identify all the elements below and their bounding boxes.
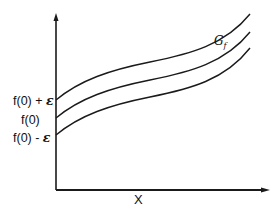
label-f0: f(0): [21, 113, 40, 127]
label-f0-plus-epsilon: f(0) + ε: [13, 94, 54, 108]
curve-label-main: G: [214, 34, 224, 48]
epsilon-symbol: ε: [46, 93, 54, 108]
epsilon-symbol: ε: [43, 130, 51, 145]
curve-label-subscript: f: [224, 41, 227, 50]
x-axis-arrow-icon: [261, 188, 270, 193]
label-text: f(0): [21, 113, 40, 127]
label-text: f(0) +: [13, 94, 46, 108]
label-f0-minus-epsilon: f(0) - ε: [13, 131, 50, 145]
y-axis-arrow-icon: [54, 13, 59, 21]
x-axis-label: X: [134, 193, 143, 207]
curve-label-gf: Gf: [214, 34, 227, 50]
label-text: f(0) -: [13, 131, 43, 145]
